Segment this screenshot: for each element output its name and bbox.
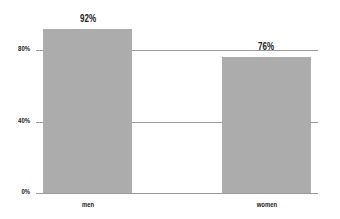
bar-chart: 80% 40% 0% 92% 76% men women (0, 0, 340, 219)
ytick-label-80: 80% (13, 45, 30, 52)
xtick-label-women: women (229, 201, 306, 208)
ytick-label-40: 40% (13, 117, 30, 124)
ytick-label-0: 0% (13, 188, 30, 195)
bar-women (222, 57, 311, 193)
value-label-men: 92% (52, 13, 124, 24)
baseline-0 (36, 193, 318, 194)
bar-men (43, 29, 132, 193)
xtick-label-men: men (50, 201, 127, 208)
value-label-women: 76% (230, 41, 302, 52)
